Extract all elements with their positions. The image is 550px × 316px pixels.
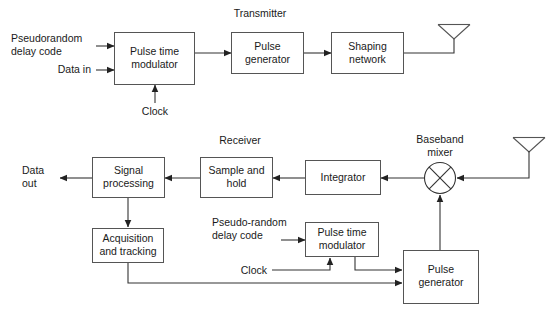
baseband-mixer-symbol <box>425 163 456 194</box>
rx-sample-and-hold-box <box>201 158 273 198</box>
transmit-antenna-icon <box>438 25 470 40</box>
wire-tx-shaping-to-antenna <box>404 38 454 53</box>
tx-pseudorandom-input-label: Pseudorandom delay code <box>11 32 103 58</box>
transmitter-section-label: Transmitter <box>200 7 320 20</box>
receive-antenna-icon <box>513 138 545 153</box>
tx-pseudorandom-line1: Pseudorandom <box>11 32 103 45</box>
tx-shaping-network-box <box>332 33 404 74</box>
rx-pulse-time-modulator-box <box>306 223 379 257</box>
wire-clock-to-rx-modulator <box>272 258 330 270</box>
rx-pseudorandom-input-label: Pseudo-random delay code <box>212 216 307 242</box>
rx-acquisition-and-tracking-box <box>93 229 164 263</box>
rx-pulse-generator-box <box>404 251 479 304</box>
wire-rx-modulator-to-rx-pulse-generator <box>355 257 402 270</box>
rx-pseudorandom-line2: delay code <box>212 229 307 242</box>
rx-data-out-label: Data out <box>22 164 72 190</box>
rx-pseudorandom-line1: Pseudo-random <box>212 216 307 229</box>
rx-integrator-box <box>306 161 381 195</box>
rx-signal-processing-box <box>93 158 165 198</box>
tx-pseudorandom-line2: delay code <box>11 45 103 58</box>
receiver-section-label: Receiver <box>190 134 290 147</box>
baseband-mixer-line1: Baseband <box>400 133 480 146</box>
rx-data-out-line2: out <box>22 177 72 190</box>
tx-pulse-time-modulator-box <box>115 33 195 85</box>
rx-clock-label: Clock <box>212 264 267 277</box>
rx-data-out-line1: Data <box>22 164 72 177</box>
block-diagram: Transmitter Pseudorandom delay code Data… <box>0 0 550 316</box>
tx-data-in-label: Data in <box>11 63 91 76</box>
tx-clock-label: Clock <box>125 105 185 118</box>
tx-pulse-generator-box <box>232 33 304 74</box>
baseband-mixer-label: Baseband mixer <box>400 133 480 159</box>
baseband-mixer-line2: mixer <box>400 146 480 159</box>
